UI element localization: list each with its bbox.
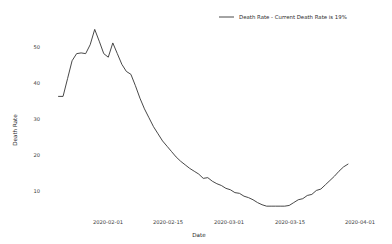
x-tick-label-2020-02-15: 2020-02-15 — [153, 219, 183, 225]
x-tick-label-2020-03-01: 2020-03-01 — [214, 219, 244, 225]
x-tick-label-2020-04-01: 2020-04-01 — [345, 219, 375, 225]
y-tick-label-50: 50 — [33, 44, 40, 50]
x-tick-label-2020-02-01: 2020-02-01 — [93, 219, 123, 225]
x-axis-title: Date — [192, 232, 206, 238]
y-tick-label-30: 30 — [33, 116, 40, 122]
chart-figure: 50 40 30 20 10 Death Rate 2020-02-01 202… — [0, 0, 392, 244]
death-rate-line — [59, 29, 348, 206]
y-tick-label-40: 40 — [33, 80, 40, 86]
y-tick-label-20: 20 — [33, 152, 40, 158]
x-tick-label-2020-03-15: 2020-03-15 — [275, 219, 305, 225]
y-axis-title: Death Rate — [12, 114, 18, 146]
line-chart: 50 40 30 20 10 Death Rate 2020-02-01 202… — [0, 0, 392, 244]
y-tick-label-10: 10 — [33, 188, 40, 194]
legend-label: Death Rate - Current Death Rate is 19% — [239, 14, 347, 20]
